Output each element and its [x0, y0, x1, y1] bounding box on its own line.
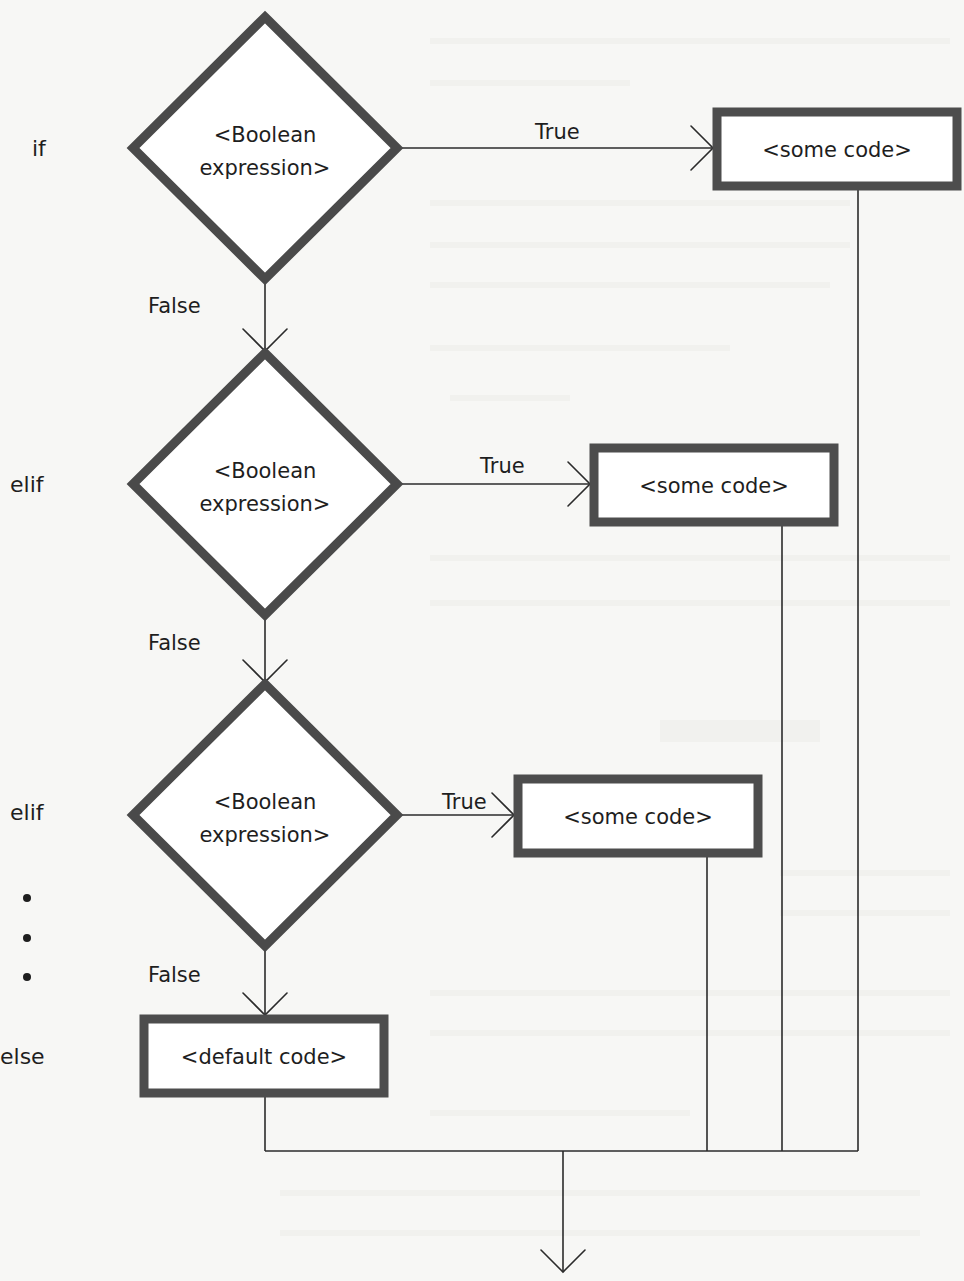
keyword-label-else: else — [0, 1044, 45, 1069]
edge-label-false-3: False — [148, 963, 201, 987]
decision-text-line1: <Boolean — [214, 790, 317, 814]
decision-text-line2: expression> — [200, 492, 331, 516]
edge-label-true-3: True — [441, 790, 487, 814]
ellipsis-dot — [23, 894, 31, 902]
process-node-default-code: <default code> — [144, 1019, 384, 1093]
decision-nodes: <Boolean expression> <Boolean expression… — [133, 17, 397, 946]
keyword-label-elif-2: elif — [10, 800, 45, 825]
process-text: <some code> — [762, 138, 912, 162]
ellipsis-dot — [23, 934, 31, 942]
decision-text-line1: <Boolean — [214, 459, 317, 483]
process-node-some-code-2: <some code> — [594, 448, 834, 522]
edge-label-true-2: True — [479, 454, 525, 478]
decision-text-line1: <Boolean — [214, 123, 317, 147]
edge-label-false-1: False — [148, 294, 201, 318]
edge-label-true-1: True — [534, 120, 580, 144]
process-text: <default code> — [181, 1045, 347, 1069]
process-node-some-code-3: <some code> — [518, 779, 758, 853]
decision-text-line2: expression> — [200, 823, 331, 847]
ellipsis-dot — [23, 973, 31, 981]
edge-label-false-2: False — [148, 631, 201, 655]
decision-text-line2: expression> — [200, 156, 331, 180]
process-node-some-code-1: <some code> — [717, 112, 957, 186]
keyword-label-if: if — [32, 136, 47, 161]
flowchart-diagram: <Boolean expression> <Boolean expression… — [0, 0, 964, 1281]
process-text: <some code> — [563, 805, 713, 829]
keyword-label-elif-1: elif — [10, 472, 45, 497]
process-text: <some code> — [639, 474, 789, 498]
